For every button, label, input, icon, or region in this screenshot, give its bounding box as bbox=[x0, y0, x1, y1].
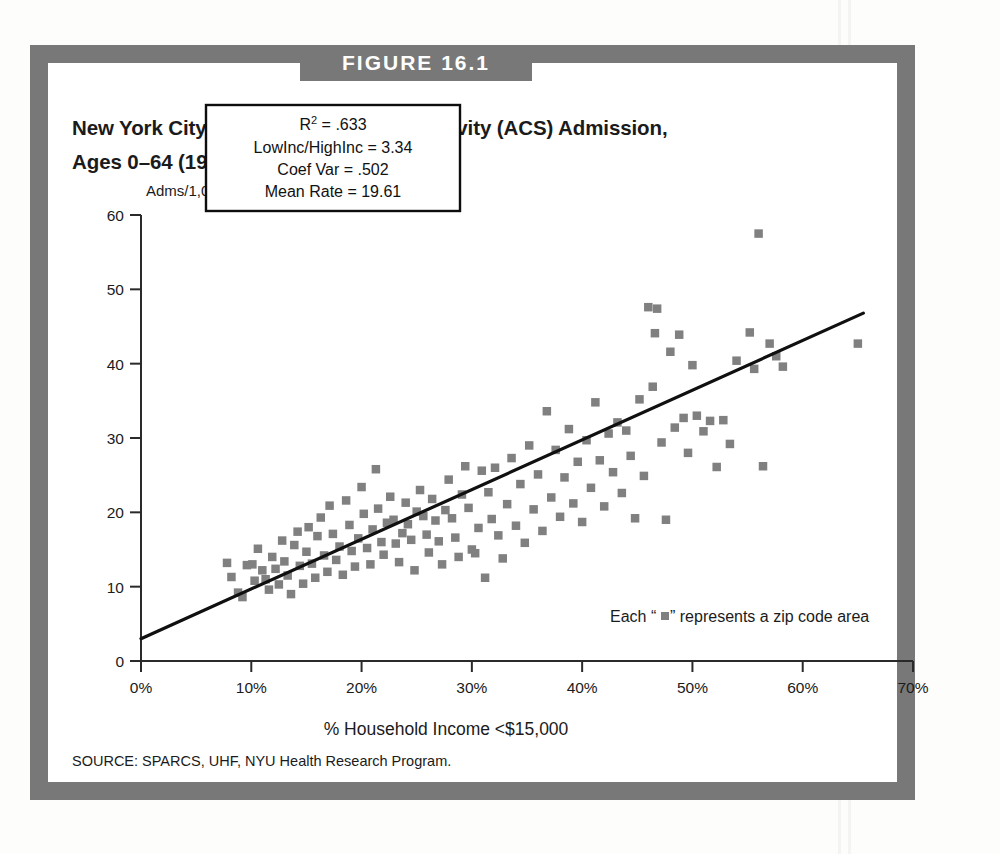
y-tick-label: 20 bbox=[107, 504, 125, 521]
scatter-point bbox=[474, 524, 483, 533]
scatter-point bbox=[448, 514, 457, 523]
scatter-point bbox=[280, 557, 289, 566]
scatter-point bbox=[271, 565, 280, 574]
x-tick-label: 0% bbox=[130, 679, 153, 696]
scatter-point bbox=[435, 537, 444, 546]
x-axis-title: % Household Income <$15,000 bbox=[324, 719, 569, 739]
scatter-point bbox=[547, 493, 556, 502]
y-tick-label: 40 bbox=[107, 356, 125, 373]
scatter-point bbox=[304, 523, 313, 532]
scatter-point-group bbox=[223, 229, 862, 601]
y-tick-label: 30 bbox=[107, 430, 125, 447]
scatter-point bbox=[484, 488, 493, 497]
x-tick-label: 30% bbox=[456, 679, 487, 696]
y-tick-label: 0 bbox=[115, 653, 124, 670]
scatter-point bbox=[311, 573, 320, 582]
source-note: SOURCE: SPARCS, UHF, NYU Health Research… bbox=[72, 753, 451, 769]
scatter-point bbox=[706, 417, 715, 426]
scatter-point bbox=[779, 362, 788, 371]
figure-inner: FIGURE 16.1 New York City: Ambulatory-Ca… bbox=[48, 63, 897, 782]
scatter-point bbox=[726, 440, 735, 449]
scatter-point bbox=[622, 426, 631, 435]
scatter-point bbox=[534, 470, 543, 479]
scatter-point bbox=[254, 545, 263, 554]
scatter-point bbox=[712, 463, 721, 472]
scatter-point bbox=[438, 560, 447, 569]
scatter-point bbox=[351, 562, 360, 571]
scatter-point bbox=[250, 576, 259, 585]
scatter-point bbox=[374, 504, 383, 513]
regression-trend-line bbox=[141, 313, 863, 639]
scatter-point bbox=[648, 382, 657, 391]
scatter-point bbox=[299, 579, 308, 588]
scatter-point bbox=[765, 339, 774, 348]
stat-r-squared-base: R bbox=[299, 116, 311, 133]
scatter-point bbox=[398, 529, 407, 538]
scatter-point bbox=[487, 515, 496, 524]
stat-lowinc-highinc: LowInc/HighInc = 3.34 bbox=[254, 139, 413, 156]
scatter-point bbox=[416, 486, 425, 495]
x-tick-label: 60% bbox=[787, 679, 818, 696]
scatter-point bbox=[651, 329, 660, 338]
scatter-point bbox=[644, 303, 653, 312]
scatter-point bbox=[653, 304, 662, 313]
scatter-point bbox=[498, 554, 507, 563]
scatter-point bbox=[609, 468, 618, 477]
statistics-box: R2 = .633 LowInc/HighInc = 3.34 Coef Var… bbox=[206, 105, 460, 211]
scatter-point bbox=[401, 498, 410, 507]
scatter-point bbox=[529, 505, 538, 514]
scatter-point bbox=[657, 438, 666, 447]
scatter-point bbox=[425, 548, 434, 557]
scatter-point bbox=[556, 513, 565, 522]
scatter-point bbox=[699, 427, 708, 436]
scatter-point bbox=[591, 398, 600, 407]
scatter-point bbox=[525, 441, 534, 450]
scatter-point bbox=[392, 539, 401, 548]
scatter-point bbox=[366, 560, 375, 569]
scatter-point bbox=[444, 475, 453, 484]
scatter-point bbox=[754, 229, 763, 238]
page-background: FIGURE 16.1 New York City: Ambulatory-Ca… bbox=[0, 0, 1000, 854]
figure-frame: FIGURE 16.1 New York City: Ambulatory-Ca… bbox=[30, 45, 915, 800]
scatter-point bbox=[227, 573, 236, 582]
scatter-point bbox=[290, 541, 299, 550]
scatter-point bbox=[461, 462, 470, 471]
x-tick-label: 10% bbox=[236, 679, 267, 696]
scatter-point bbox=[431, 516, 440, 525]
scatter-point bbox=[302, 547, 311, 556]
scatter-point bbox=[332, 556, 341, 565]
scatter-point bbox=[258, 566, 267, 575]
scatter-point bbox=[360, 510, 369, 519]
scatter-point bbox=[640, 472, 649, 481]
x-axis-ticks: 0%10%20%30%40%50%60%70% bbox=[130, 661, 929, 696]
axis-lines bbox=[141, 215, 913, 661]
scatter-point bbox=[454, 553, 463, 562]
scatter-point bbox=[746, 328, 755, 337]
scatter-point bbox=[538, 527, 547, 536]
scatter-point bbox=[732, 356, 741, 365]
scatter-point bbox=[428, 495, 437, 504]
scatter-point bbox=[323, 568, 332, 577]
scatter-point bbox=[329, 530, 338, 539]
x-tick-label: 40% bbox=[567, 679, 598, 696]
scatter-point bbox=[339, 571, 348, 580]
scatter-point bbox=[379, 550, 388, 559]
scatter-point bbox=[516, 480, 525, 489]
scatter-point bbox=[719, 416, 728, 425]
scatter-point bbox=[223, 559, 232, 568]
scatter-point bbox=[503, 500, 512, 509]
zip-note-suffix: ” represents a zip code area bbox=[670, 608, 869, 625]
y-tick-label: 60 bbox=[107, 207, 125, 224]
plot-svg: Adms/1,000 0102030405060 0%10%20%30%40%5… bbox=[48, 63, 897, 782]
scatter-point bbox=[313, 532, 322, 541]
scatter-point bbox=[596, 456, 605, 465]
scatter-point bbox=[278, 536, 287, 545]
scatter-point bbox=[635, 395, 644, 404]
scatter-point bbox=[521, 539, 530, 548]
scatter-point bbox=[325, 501, 334, 510]
zip-code-note: Each “ ” represents a zip code area bbox=[610, 608, 869, 625]
scatter-point bbox=[441, 506, 450, 515]
scatter-point bbox=[569, 499, 578, 508]
zip-note-prefix: Each “ bbox=[610, 608, 656, 625]
scatter-point bbox=[693, 411, 702, 420]
